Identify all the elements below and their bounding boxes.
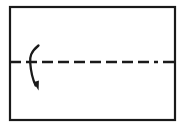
fold-diagram-figure: Rectangular sheet with a horizontal dash… xyxy=(0,0,184,127)
paper-sheet-border xyxy=(10,7,175,120)
diagram-canvas xyxy=(0,0,184,127)
